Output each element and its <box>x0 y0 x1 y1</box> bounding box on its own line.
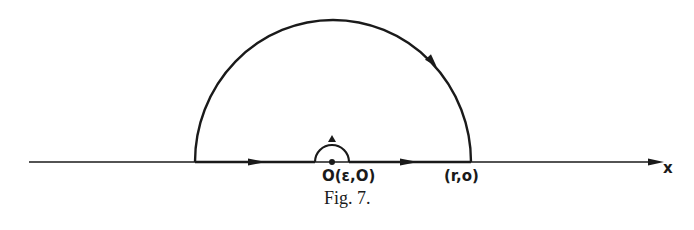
direction-arrow-icon <box>248 159 266 166</box>
direction-arrow-icon <box>328 135 336 142</box>
contour-figure: O(ε,O) (r,o) x Fig. 7. <box>0 0 694 230</box>
origin-label: O(ε,O) <box>322 167 375 185</box>
r-point-label: (r,o) <box>444 167 479 185</box>
origin-point <box>329 159 335 165</box>
direction-arrow-icon <box>425 54 440 69</box>
direction-arrow-icon <box>400 159 418 166</box>
figure-caption: Fig. 7. <box>324 188 371 209</box>
x-axis-label: x <box>663 159 673 177</box>
x-axis-arrow-icon <box>648 159 664 166</box>
